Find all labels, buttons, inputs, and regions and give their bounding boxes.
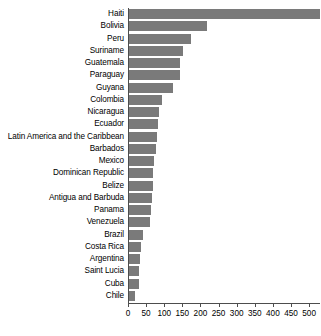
x-axis-tick-label: 200: [194, 309, 208, 319]
x-axis-tick-label: 0: [126, 309, 131, 319]
bar-chart: HaitiBoliviaPeruSurinameGuatemalaParagua…: [0, 0, 321, 336]
category-label: Cuba: [0, 278, 124, 290]
category-label: Peru: [0, 33, 124, 45]
category-label: Barbados: [0, 143, 124, 155]
category-label: Panama: [0, 204, 124, 216]
bar-row: [128, 241, 320, 253]
category-label: Venezuela: [0, 216, 124, 228]
x-axis-tick: [291, 303, 292, 307]
x-axis-tick: [219, 303, 220, 307]
category-label-column: HaitiBoliviaPeruSurinameGuatemalaParagua…: [0, 8, 124, 302]
bar-row: [128, 192, 320, 204]
category-label: Antigua and Barbuda: [0, 192, 124, 204]
x-axis-tick: [200, 303, 201, 307]
bar-row: [128, 82, 320, 94]
bar: [128, 217, 150, 227]
bar: [128, 266, 139, 276]
bar: [128, 83, 173, 93]
x-axis-tick-label: 450: [284, 309, 298, 319]
bar: [128, 132, 157, 142]
bar-row: [128, 94, 320, 106]
bar: [128, 34, 191, 44]
category-label: Guatemala: [0, 57, 124, 69]
bar-row: [128, 290, 320, 302]
category-label: Ecuador: [0, 118, 124, 130]
bar-row: [128, 216, 320, 228]
category-label: Nicaragua: [0, 106, 124, 118]
x-axis-tick: [182, 303, 183, 307]
x-axis-tick: [255, 303, 256, 307]
bar-row: [128, 69, 320, 81]
bar-row: [128, 33, 320, 45]
category-label: Suriname: [0, 45, 124, 57]
x-axis-tick: [237, 303, 238, 307]
bar-row: [128, 278, 320, 290]
bar: [128, 230, 143, 240]
x-axis-tick-label: 500: [302, 309, 316, 319]
x-axis-tick: [146, 303, 147, 307]
bar: [128, 107, 159, 117]
category-label: Costa Rica: [0, 241, 124, 253]
x-axis-tick-label: 100: [157, 309, 171, 319]
bar-row: [128, 20, 320, 32]
bar: [128, 9, 320, 19]
x-axis-tick: [128, 303, 129, 307]
bar: [128, 193, 152, 203]
bar-row: [128, 180, 320, 192]
bar: [128, 254, 140, 264]
x-axis-tick-label: 50: [142, 309, 151, 319]
bar: [128, 181, 153, 191]
bar-row: [128, 167, 320, 179]
bar-row: [128, 57, 320, 69]
bar-row: [128, 143, 320, 155]
category-label: Argentina: [0, 253, 124, 265]
x-axis-tick: [164, 303, 165, 307]
category-label: Bolivia: [0, 20, 124, 32]
x-axis-tick-label: 400: [266, 309, 280, 319]
bar: [128, 156, 154, 166]
bar: [128, 58, 180, 68]
bar: [128, 144, 156, 154]
category-label: Chile: [0, 290, 124, 302]
x-axis-tick-label: 350: [248, 309, 262, 319]
plot-area: [128, 8, 320, 302]
x-axis-tick: [309, 303, 310, 307]
category-label: Brazil: [0, 229, 124, 241]
bar: [128, 279, 139, 289]
bar: [128, 70, 180, 80]
category-label: Saint Lucia: [0, 265, 124, 277]
category-label: Belize: [0, 180, 124, 192]
bar: [128, 242, 141, 252]
category-label: Colombia: [0, 94, 124, 106]
bar: [128, 291, 135, 301]
x-axis-tick-label: 300: [230, 309, 244, 319]
bar-row: [128, 45, 320, 57]
bar: [128, 21, 207, 31]
bar: [128, 95, 162, 105]
bar-row: [128, 155, 320, 167]
bar-row: [128, 8, 320, 20]
x-axis-tick-label: 150: [175, 309, 189, 319]
bar: [128, 119, 158, 129]
bar: [128, 205, 151, 215]
bar-row: [128, 131, 320, 143]
category-label: Mexico: [0, 155, 124, 167]
category-label: Dominican Republic: [0, 167, 124, 179]
bar: [128, 168, 153, 178]
bar-row: [128, 265, 320, 277]
bar-row: [128, 229, 320, 241]
category-label: Guyana: [0, 82, 124, 94]
y-axis-spine: [128, 8, 129, 303]
bar-row: [128, 118, 320, 130]
x-axis-tick: [273, 303, 274, 307]
category-label: Paraguay: [0, 69, 124, 81]
bar-row: [128, 204, 320, 216]
category-label: Haiti: [0, 8, 124, 20]
bar-row: [128, 253, 320, 265]
bar-row: [128, 106, 320, 118]
x-axis-tick-label: 250: [212, 309, 226, 319]
category-label: Latin America and the Caribbean: [0, 131, 124, 143]
bar: [128, 46, 183, 56]
